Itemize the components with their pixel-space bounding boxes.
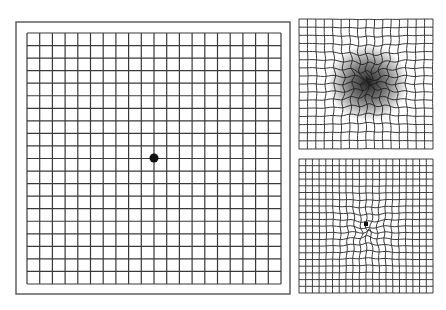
distorted-grid-with-scotoma (297, 17, 435, 151)
normal-amsler-grid (15, 21, 291, 295)
fixation-dot (364, 222, 368, 226)
metamorphopsia-grid-panel (297, 157, 435, 295)
scotoma-blur (328, 45, 408, 121)
scotoma-grid-panel (297, 17, 435, 151)
normal-amsler-grid-panel (15, 21, 291, 295)
fixation-dot (150, 154, 159, 163)
wavy-grid-metamorphopsia (297, 157, 435, 295)
